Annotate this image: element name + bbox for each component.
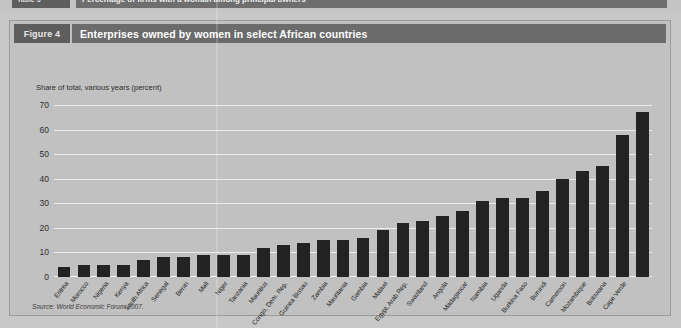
bar-slot [214,105,234,277]
bar [217,255,230,277]
bar [197,255,210,277]
bar [416,221,429,278]
bar-slot [293,105,313,277]
bar-slot [194,105,214,277]
bars-group [54,105,652,277]
x-label-slot: Gambia [353,279,373,328]
y-axis-tick-label: 10 [40,247,49,257]
y-axis-caption: Share of total, various years (percent) [36,83,161,92]
bar [237,255,250,277]
x-label-slot: Niger [214,279,234,328]
bar-slot [453,105,473,277]
bar [317,240,330,277]
x-label-slot: Burkina Faso [513,279,533,328]
bar-slot [572,105,592,277]
bar-slot [552,105,572,277]
bar [357,238,370,277]
y-axis-tick-label: 20 [40,223,49,233]
bar-slot [353,105,373,277]
bar-slot [533,105,553,277]
bar-slot [74,105,94,277]
bar-slot [333,105,353,277]
x-axis-tick-label: Uganda [489,280,508,302]
x-axis-tick-label: Malawi [371,280,389,300]
bar-slot [413,105,433,277]
bar [556,179,569,277]
figure-container: Figure 4 Enterprises owned by women in s… [9,20,671,316]
bar [496,198,509,277]
top-strip-badge-label: Table 3 [17,0,41,6]
y-axis-tick-label: 70 [40,100,49,110]
x-axis-tick-label: Mali [196,280,209,294]
bar-slot [373,105,393,277]
bar-slot [94,105,114,277]
x-axis-tick-label: Kenya [113,280,130,299]
x-label-slot: Mali [194,279,214,328]
y-axis-tick-label: 40 [40,174,49,184]
bar [277,245,290,277]
plot-wrapper: Share of total, various years (percent) … [10,45,670,315]
bar [157,257,170,277]
x-axis-tick-label: Nigeria [91,280,109,300]
bar [576,171,589,277]
bar [436,216,449,277]
bar [58,267,71,277]
bar-slot [54,105,74,277]
x-label-slot: Cape Verde [612,279,632,328]
x-axis-tick-label: Angola [431,280,449,300]
x-axis-tick-label: Niger [214,280,229,296]
bar-slot [433,105,453,277]
x-axis-tick-label: Benin [174,280,190,297]
x-label-slot: Swaziland [413,279,433,328]
x-axis-tick-label: Burundi [529,280,548,302]
bar-slot [513,105,533,277]
y-axis-tick-label: 0 [44,272,49,282]
bar-slot [273,105,293,277]
plot-area: 010203040506070 [54,105,652,277]
page-top-strip: Table 3 Percentage of firms with a woman… [0,0,681,12]
y-axis-tick-label: 50 [40,149,49,159]
x-label-slot: Mauritania [333,279,353,328]
bar-slot [592,105,612,277]
bar [377,230,390,277]
bar [337,240,350,277]
bar-slot [253,105,273,277]
x-label-slot: Namibia [473,279,493,328]
figure-title: Enterprises owned by women in select Afr… [72,24,666,43]
bar-slot [313,105,333,277]
bar [97,265,110,277]
y-axis-tick-label: 30 [40,198,49,208]
x-label-slot [632,279,652,328]
y-axis-tick-label: 60 [40,125,49,135]
x-label-slot: Senegal [154,279,174,328]
bar [78,265,91,277]
bar-slot [473,105,493,277]
bar [137,260,150,277]
figure-number-badge: Figure 4 [14,24,70,43]
bar-slot [154,105,174,277]
top-strip-title: Percentage of firms with a woman among p… [82,0,306,6]
bar [476,201,489,277]
bar-slot [612,105,632,277]
bar-slot [632,105,652,277]
bar [636,112,649,277]
bar [596,166,609,277]
bar-slot [114,105,134,277]
bar-slot [493,105,513,277]
figure-page: Table 3 Percentage of firms with a woman… [0,0,681,328]
x-axis-tick-label: Zambia [310,280,329,301]
bar [516,198,529,277]
bar [297,243,310,277]
bar-slot [233,105,253,277]
x-label-slot: Guinea Bissau [293,279,313,328]
bar [456,211,469,277]
bar [536,191,549,277]
bar [616,135,629,278]
x-label-slot: Madagascar [453,279,473,328]
bar [177,257,190,277]
bar [257,248,270,277]
x-axis-tick-label: Eritrea [52,280,69,299]
bar-slot [393,105,413,277]
source-note: Source: World Economic Forum 2007. [32,303,144,310]
x-label-slot: Benin [174,279,194,328]
